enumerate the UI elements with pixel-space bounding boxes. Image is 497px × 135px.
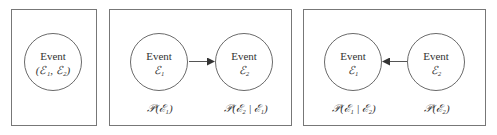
prob-e1-given-e2: 𝒫(ℰ₁ | ℰ₂) xyxy=(309,102,399,114)
node-e1-symbol: ℰ₁ xyxy=(119,64,199,76)
prob-e2: 𝒫(ℰ₂) xyxy=(392,102,482,114)
prob-e2-given-e1: 𝒫(ℰ₂ | ℰ₁) xyxy=(201,102,291,114)
node-e1 xyxy=(324,33,382,91)
node-joint-event xyxy=(24,33,82,91)
node-e2-title: Event xyxy=(204,50,284,62)
prob-e1: 𝒫(ℰ₁) xyxy=(115,102,205,114)
node-joint-event-title: Event xyxy=(13,50,93,62)
node-joint-event-symbol: (ℰ₁, ℰ₂) xyxy=(13,64,93,76)
node-e2-symbol: ℰ₂ xyxy=(204,64,284,76)
node-e1-title: Event xyxy=(119,50,199,62)
node-e1-symbol: ℰ₁ xyxy=(313,64,393,76)
node-e2-symbol: ℰ₂ xyxy=(396,64,476,76)
node-e2 xyxy=(215,33,273,91)
node-e1-title: Event xyxy=(313,50,393,62)
node-e2 xyxy=(407,33,465,91)
node-e1 xyxy=(130,33,188,91)
node-e2-title: Event xyxy=(396,50,476,62)
